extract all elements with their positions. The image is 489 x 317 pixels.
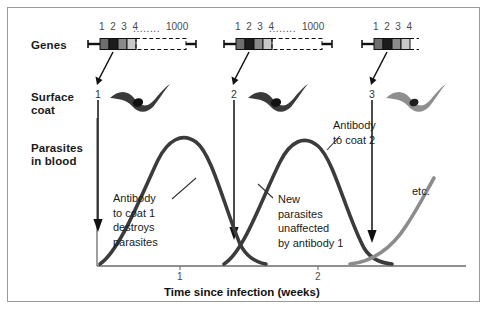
annotation-new-parasites-line-1: New [278,192,374,207]
annotation-antibody-coat-2: Antibody to coat 2 [333,118,399,147]
annotation-new-parasites-line-4: by antibody 1 [278,236,374,251]
x-axis-title: Time since infection (weeks) [164,286,320,298]
annotation-antibody-coat-1-line-4: parasites [113,235,195,250]
annotation-etc: etc. [412,184,430,199]
annotation-new-parasites: New parasites unaffected by antibody 1 [278,192,374,250]
annotation-antibody-coat-1-line-1: Antibody [113,191,195,206]
x-tick-label-1: 1 [177,271,183,282]
annotation-new-parasites-line-2: parasites [278,207,374,222]
antigenic-variation-figure: Genes Surface coat Parasites in blood 1 … [0,0,489,317]
x-tick-label-2: 2 [315,271,321,282]
annotation-antibody-coat-1: Antibody to coat 1 destroys parasites [113,191,195,249]
annotation-antibody-coat-2-line-2: to coat 2 [333,133,399,148]
annotation-antibody-coat-2-line-1: Antibody [333,118,399,133]
event-arrow-1 [93,100,102,232]
annotation-antibody-coat-1-line-3: destroys [113,220,195,235]
annotation-new-parasites-line-3: unaffected [278,221,374,236]
parasitemia-plot [0,0,489,317]
annotation-antibody-coat-1-line-2: to coat 1 [113,206,195,221]
